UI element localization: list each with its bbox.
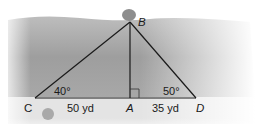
rock-icon — [122, 9, 136, 21]
point-label-A: A — [126, 103, 134, 115]
point-label-C: C — [24, 103, 32, 115]
point-label-B: B — [138, 17, 146, 29]
segment-label-CA: 50 yd — [67, 103, 94, 114]
angle-label-C: 40° — [54, 86, 71, 97]
angle-label-D: 50° — [163, 86, 180, 97]
segment-label-AD: 35 yd — [152, 103, 179, 114]
point-label-D: D — [196, 103, 204, 115]
rock-icon — [42, 108, 54, 120]
triangle-diagram: B C A D 40° 50° 50 yd 35 yd — [0, 0, 255, 134]
